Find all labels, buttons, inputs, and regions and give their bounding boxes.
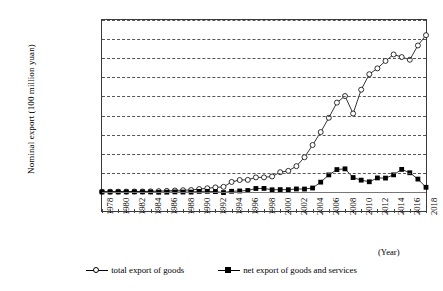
x-tick [345, 209, 346, 213]
x-tick-label: 2000 [283, 198, 293, 215]
data-point-open-circle [415, 43, 420, 48]
gridline [102, 39, 426, 40]
gridline [102, 154, 426, 155]
data-point-open-circle [237, 178, 242, 183]
data-point-filled-square [302, 187, 307, 192]
x-tick [134, 209, 135, 213]
data-point-filled-square [335, 167, 340, 172]
data-point-open-circle [229, 179, 234, 184]
x-tick [377, 209, 378, 213]
data-point-filled-square [294, 187, 299, 192]
gridline [102, 58, 426, 59]
gridline [102, 20, 426, 21]
x-tick [394, 209, 395, 213]
data-point-filled-square [254, 186, 259, 191]
chart-legend: total export of goods net export of good… [0, 265, 443, 275]
data-point-open-circle [270, 174, 275, 179]
gridline [102, 77, 426, 78]
x-tick-label: 1992 [218, 198, 228, 215]
x-tick-label: 2012 [380, 198, 390, 215]
data-point-open-circle [310, 143, 315, 148]
data-point-filled-square [424, 185, 429, 190]
data-point-filled-square [351, 175, 356, 180]
data-point-open-circle [334, 100, 339, 105]
chart-figure: Nominal export (100 million yuan) –20000… [0, 0, 443, 291]
data-point-filled-square [375, 176, 380, 181]
legend-item-net-export[interactable]: net export of goods and services [218, 265, 357, 275]
data-point-open-circle [391, 52, 396, 57]
data-point-filled-square [383, 176, 388, 181]
x-tick [313, 209, 314, 213]
data-point-filled-square [399, 167, 404, 172]
x-tick [118, 209, 119, 213]
x-tick [215, 209, 216, 213]
filled-square-icon [218, 266, 240, 275]
x-tick [426, 209, 427, 213]
x-tick [102, 209, 103, 213]
x-tick-label: 2004 [315, 198, 325, 215]
data-point-filled-square [262, 186, 267, 191]
x-tick-label: 2006 [331, 198, 341, 215]
data-point-filled-square [367, 179, 372, 184]
x-tick [199, 209, 200, 213]
x-tick-label: 1984 [153, 198, 163, 215]
x-tick [361, 209, 362, 213]
x-tick-label: 1978 [105, 198, 115, 215]
x-tick-label: 1982 [137, 198, 147, 215]
x-tick-label: 1994 [234, 198, 244, 215]
x-tick-label: 1996 [250, 198, 260, 215]
x-tick-label: 2014 [396, 198, 406, 215]
data-point-open-circle [294, 164, 299, 169]
x-tick-label: 2008 [348, 198, 358, 215]
data-point-filled-square [416, 177, 421, 182]
x-tick [329, 209, 330, 213]
x-tick-label: 2010 [364, 198, 374, 215]
data-point-open-circle [213, 185, 218, 190]
x-tick [264, 209, 265, 213]
plot-area [101, 19, 427, 212]
data-point-filled-square [318, 180, 323, 185]
x-tick-label: 1986 [169, 198, 179, 215]
x-tick-label: 1998 [267, 198, 277, 215]
data-point-open-circle [367, 72, 372, 77]
legend-item-total-export[interactable]: total export of goods [86, 265, 184, 275]
x-tick [183, 209, 184, 213]
data-point-open-circle [221, 184, 226, 189]
x-tick-label: 1988 [186, 198, 196, 215]
zero-line [102, 192, 426, 193]
data-point-open-circle [262, 175, 267, 180]
x-tick [248, 209, 249, 213]
data-point-open-circle [302, 155, 307, 160]
x-tick-label: 2018 [429, 198, 439, 215]
x-tick [167, 209, 168, 213]
data-point-open-circle [245, 177, 250, 182]
data-point-open-circle [253, 175, 258, 180]
x-tick-label: 1980 [121, 198, 131, 215]
x-tick [280, 209, 281, 213]
gridline [102, 135, 426, 136]
data-point-filled-square [310, 186, 315, 191]
x-tick [232, 209, 233, 213]
y-axis-title: Nominal export (100 million yuan) [26, 14, 36, 204]
x-tick [296, 209, 297, 213]
data-point-open-circle [383, 58, 388, 63]
x-tick-label: 2016 [412, 198, 422, 215]
gridline [102, 96, 426, 97]
gridline [102, 116, 426, 117]
x-tick [410, 209, 411, 213]
data-point-filled-square [359, 178, 364, 183]
x-axis-unit-label: (Year) [378, 247, 400, 257]
x-tick-label: 2002 [299, 198, 309, 215]
data-point-open-circle [375, 66, 380, 71]
legend-label: total export of goods [111, 265, 184, 275]
x-tick-label: 1990 [202, 198, 212, 215]
data-point-open-circle [424, 33, 429, 38]
data-point-filled-square [343, 166, 348, 171]
x-tick [151, 209, 152, 213]
open-circle-icon [86, 266, 108, 275]
legend-label: net export of goods and services [243, 265, 357, 275]
gridline [102, 173, 426, 174]
data-point-open-circle [359, 87, 364, 92]
